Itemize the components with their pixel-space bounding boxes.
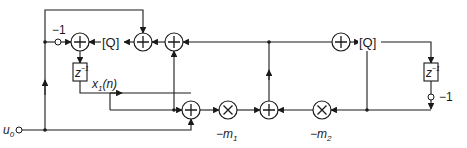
gain-neg1-right-label: −1 [439, 90, 453, 104]
state-variable-label: x1(n) [91, 77, 117, 93]
adder-far-right [332, 33, 350, 51]
adder-top-center [134, 33, 152, 51]
quantizer-left: [Q] [101, 33, 124, 51]
quantizer-right: [Q] [358, 33, 381, 51]
signal-flow-diagram: −1 −m1 −m2 [Q] [Q] [0, 0, 467, 148]
adder-top-right [165, 33, 183, 51]
gain-neg1-left-label: −1 [52, 23, 66, 37]
adder-bottom-left [182, 101, 200, 119]
adder-left [71, 33, 89, 51]
svg-text:[Q]: [Q] [102, 35, 119, 50]
svg-text:−m2: −m2 [310, 127, 332, 143]
input-u0: u0 [3, 123, 22, 139]
svg-text:u0: u0 [3, 123, 15, 139]
adder-bottom-right [260, 101, 278, 119]
multiplier-m2: −m2 [310, 101, 332, 143]
delay-right: z−1 [424, 63, 440, 81]
multiplier-m1: −m1 [216, 101, 237, 143]
gain-neg1-right: −1 [428, 90, 453, 104]
svg-text:[Q]: [Q] [359, 35, 376, 50]
svg-text:−m1: −m1 [216, 127, 237, 143]
delay-left: z−1 [73, 63, 89, 81]
